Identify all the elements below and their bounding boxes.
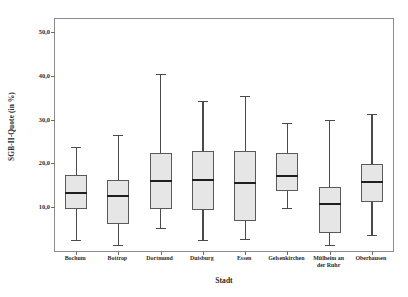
upper-whisker-cap bbox=[113, 135, 123, 136]
upper-whisker-cap bbox=[156, 74, 166, 75]
upper-whisker-line bbox=[76, 147, 77, 175]
y-axis-title-text: SGB-II-Quote (in %) bbox=[7, 92, 16, 161]
y-axis-tick-mark bbox=[51, 163, 55, 164]
lower-whisker-cap bbox=[367, 235, 377, 236]
lower-whisker-cap bbox=[156, 228, 166, 229]
upper-whisker-cap bbox=[198, 101, 208, 102]
lower-whisker-cap bbox=[282, 208, 292, 209]
lower-whisker-line bbox=[371, 202, 372, 235]
y-axis-tick-mark bbox=[51, 76, 55, 77]
y-axis-title: SGB-II-Quote (in %) bbox=[0, 0, 22, 252]
lower-whisker-cap bbox=[113, 245, 123, 246]
y-axis-tick-label: 20,0 bbox=[24, 159, 50, 166]
lower-whisker-line bbox=[76, 209, 77, 241]
iqr-box bbox=[319, 187, 341, 233]
y-axis-tick-label: 40,0 bbox=[24, 71, 50, 78]
iqr-box bbox=[107, 180, 129, 224]
median-line bbox=[65, 192, 87, 194]
iqr-box bbox=[276, 153, 298, 191]
upper-whisker-cap bbox=[282, 123, 292, 124]
upper-whisker-line bbox=[160, 74, 161, 154]
upper-whisker-line bbox=[371, 114, 372, 164]
x-axis-title: Stadt bbox=[54, 276, 394, 285]
lower-whisker-line bbox=[118, 224, 119, 245]
lower-whisker-line bbox=[160, 209, 161, 227]
boxplot-figure: SGB-II-Quote (in %) 10,020,030,040,050,0… bbox=[0, 0, 408, 297]
lower-whisker-cap bbox=[198, 240, 208, 241]
upper-whisker-line bbox=[287, 123, 288, 154]
upper-whisker-cap bbox=[240, 96, 250, 97]
median-line bbox=[234, 182, 256, 184]
y-axis-tick-mark bbox=[51, 120, 55, 121]
median-line bbox=[319, 203, 341, 205]
median-line bbox=[107, 195, 129, 197]
y-axis-tick-label: 30,0 bbox=[24, 115, 50, 122]
y-axis-tick-mark bbox=[51, 207, 55, 208]
median-line bbox=[192, 179, 214, 181]
median-line bbox=[276, 175, 298, 177]
lower-whisker-cap bbox=[240, 239, 250, 240]
upper-whisker-line bbox=[202, 101, 203, 151]
y-axis-tick-labels: 10,020,030,040,050,0 bbox=[20, 0, 50, 297]
median-line bbox=[361, 181, 383, 183]
upper-whisker-cap bbox=[71, 147, 81, 148]
lower-whisker-cap bbox=[325, 245, 335, 246]
lower-whisker-line bbox=[245, 221, 246, 239]
lower-whisker-line bbox=[287, 191, 288, 208]
upper-whisker-cap bbox=[325, 120, 335, 121]
x-axis-tick-label: Oberhausen bbox=[342, 255, 400, 262]
y-axis-tick-mark bbox=[51, 32, 55, 33]
upper-whisker-line bbox=[118, 135, 119, 180]
iqr-box bbox=[234, 151, 256, 221]
y-axis-tick-label: 50,0 bbox=[24, 28, 50, 35]
median-line bbox=[150, 180, 172, 182]
upper-whisker-line bbox=[329, 120, 330, 187]
upper-whisker-cap bbox=[367, 114, 377, 115]
lower-whisker-cap bbox=[71, 240, 81, 241]
plot-frame bbox=[54, 18, 394, 252]
upper-whisker-line bbox=[245, 96, 246, 152]
lower-whisker-line bbox=[329, 233, 330, 246]
y-axis-tick-label: 10,0 bbox=[24, 203, 50, 210]
plot-area bbox=[55, 19, 393, 251]
lower-whisker-line bbox=[202, 210, 203, 240]
